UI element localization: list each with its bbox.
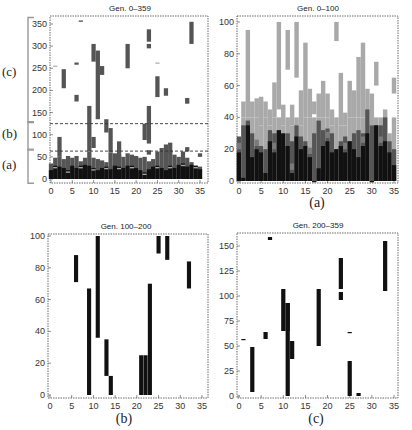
- data-bar: [339, 146, 343, 181]
- data-bar: [53, 167, 57, 168]
- data-bar: [259, 152, 263, 181]
- y-tick-label: 40: [35, 326, 45, 336]
- data-bar: [299, 90, 303, 125]
- data-bar: [392, 165, 396, 181]
- data-bar: [255, 149, 259, 181]
- y-tick-label: 150: [219, 241, 234, 251]
- data-bar: [130, 167, 134, 168]
- x-tick-label: 25: [154, 401, 164, 411]
- data-bar: [263, 173, 267, 181]
- y-tick-label: 0: [229, 391, 234, 401]
- data-bar: [143, 124, 147, 140]
- data-bar: [303, 146, 307, 181]
- data-bar: [392, 78, 396, 94]
- panel-title-gen-100-200: Gen. 100–200: [101, 222, 152, 231]
- x-tick-label: 25: [345, 186, 355, 196]
- data-bar: [100, 168, 104, 179]
- x-tick-label: 35: [195, 186, 205, 196]
- data-bar: [343, 143, 347, 149]
- data-bar: [96, 236, 100, 338]
- data-bar: [96, 170, 100, 179]
- data-bar: [121, 168, 125, 179]
- data-bar: [317, 289, 321, 346]
- data-bar: [100, 66, 104, 75]
- x-tick-label: 25: [152, 186, 162, 196]
- data-bar: [268, 237, 272, 240]
- data-bar: [79, 167, 83, 168]
- x-tick-label: 5: [70, 186, 75, 196]
- data-bar: [339, 258, 343, 289]
- data-bar: [281, 105, 285, 126]
- y-tick-label: 20: [35, 358, 45, 368]
- data-bar: [255, 140, 259, 146]
- data-bar: [62, 168, 66, 179]
- x-tick-label: 10: [278, 186, 288, 196]
- data-bar: [87, 166, 91, 179]
- y-tick-label: 250: [32, 63, 47, 73]
- data-bar: [91, 137, 95, 148]
- data-bar: [108, 128, 112, 152]
- y-tick-label: 125: [219, 266, 234, 276]
- data-bar: [241, 339, 245, 340]
- x-tick-label: 30: [175, 401, 185, 411]
- data-bar: [198, 153, 202, 157]
- data-bar: [189, 22, 193, 44]
- y-tick-label: 100: [30, 231, 45, 241]
- data-bar: [126, 166, 130, 179]
- data-bar: [143, 172, 147, 179]
- data-bar: [286, 303, 290, 331]
- data-bar: [308, 148, 312, 154]
- bracket-label-b: (b): [2, 126, 17, 141]
- panel-gen-200-359: 051015202530350255075100125150: [219, 233, 399, 411]
- data-bar: [294, 136, 298, 181]
- x-tick-label: 15: [110, 186, 120, 196]
- data-bar: [108, 169, 112, 179]
- x-tick-label: 15: [300, 401, 310, 411]
- data-bar: [370, 181, 374, 182]
- data-bar: [155, 63, 159, 64]
- data-bar: [187, 261, 191, 288]
- data-bar: [286, 146, 290, 181]
- y-tick-label: 20: [224, 144, 234, 154]
- data-bar: [387, 133, 391, 141]
- data-bar: [277, 22, 281, 109]
- data-bar: [164, 170, 168, 179]
- y-tick-label: 0: [229, 176, 234, 186]
- data-bar: [308, 157, 312, 181]
- data-bar: [74, 95, 78, 102]
- data-bar: [66, 170, 70, 179]
- data-bar: [126, 44, 130, 68]
- data-bar: [49, 170, 53, 179]
- data-bar: [339, 73, 343, 125]
- caption-c: (c): [308, 411, 324, 427]
- data-bar: [325, 141, 329, 181]
- x-tick-label: 5: [69, 401, 74, 411]
- data-bar: [348, 361, 352, 396]
- figure-canvas: 05101520253035050100150200250300350 0510…: [0, 0, 412, 430]
- data-bar: [294, 22, 298, 78]
- data-bar: [272, 143, 276, 149]
- data-bar: [263, 332, 267, 339]
- data-bar: [143, 174, 147, 175]
- data-bar: [334, 22, 338, 41]
- data-bar: [387, 152, 391, 181]
- x-tick-label: 20: [323, 401, 333, 411]
- data-bar: [281, 133, 285, 181]
- data-bar: [237, 181, 241, 182]
- data-bar: [70, 166, 74, 179]
- caption-b: (b): [116, 411, 133, 427]
- data-bar: [157, 236, 161, 253]
- data-bar: [343, 152, 347, 181]
- data-bar: [365, 133, 369, 181]
- y-tick-label: 50: [224, 341, 234, 351]
- data-bar: [62, 69, 66, 88]
- data-bar: [299, 149, 303, 181]
- data-bar: [246, 125, 250, 181]
- data-bar: [383, 141, 387, 181]
- data-bar: [241, 102, 245, 118]
- data-bar: [138, 170, 142, 179]
- x-tick-label: 20: [132, 401, 142, 411]
- data-bar: [241, 125, 245, 181]
- data-bar: [250, 102, 254, 118]
- x-tick-label: 25: [345, 401, 355, 411]
